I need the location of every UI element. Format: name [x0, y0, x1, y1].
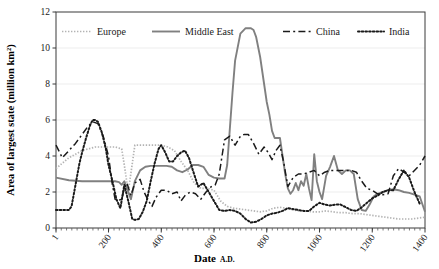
x-tick-label: 200 — [97, 232, 114, 250]
gridlines — [56, 48, 425, 192]
x-tick-label: 1400 — [411, 232, 430, 254]
x-tick-label: 1000 — [305, 232, 324, 254]
x-tick-label: 1200 — [358, 232, 377, 254]
legend-label-india: India — [389, 26, 410, 37]
x-axis-title: DateA.D. — [194, 252, 235, 264]
legend-label-middle-east: Middle East — [185, 26, 234, 37]
y-tick-label: 8 — [45, 79, 50, 89]
x-tick-label: 600 — [202, 232, 219, 250]
x-tick-label: 400 — [150, 232, 167, 250]
x-axis-title-suffix: A.D. — [220, 255, 235, 264]
line-chart: 0246810121200400600800100012001400Europe… — [0, 0, 439, 269]
y-tick-label: 2 — [45, 187, 50, 197]
series-line-india — [56, 120, 420, 223]
y-tick-label: 12 — [41, 7, 51, 17]
legend-label-china: China — [316, 26, 340, 37]
chart-container: 0246810121200400600800100012001400Europe… — [0, 0, 439, 269]
y-tick-label: 10 — [41, 43, 51, 53]
y-axis-title: Area of largest state (million km²) — [5, 44, 17, 196]
legend-label-europe: Europe — [97, 26, 126, 37]
series-line-china — [56, 122, 425, 207]
series-group — [56, 28, 425, 222]
legend: EuropeMiddle EastChinaIndia — [62, 26, 410, 37]
y-axis: 024681012 — [41, 7, 57, 233]
x-tick-label: 1 — [50, 232, 61, 242]
x-axis: 1200400600800100012001400 — [50, 228, 430, 254]
y-tick-label: 6 — [45, 115, 50, 125]
y-tick-label: 4 — [45, 151, 50, 161]
x-tick-label: 800 — [255, 232, 272, 250]
x-axis-title-main: Date — [194, 252, 216, 264]
y-tick-label: 0 — [45, 223, 50, 233]
